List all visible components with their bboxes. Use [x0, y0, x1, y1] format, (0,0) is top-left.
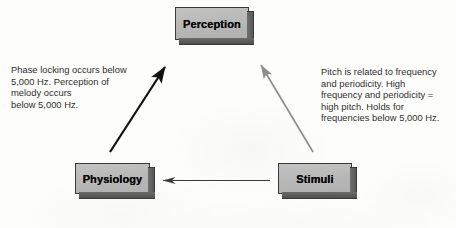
- annotation-right-text: Pitch is related to frequency and period…: [321, 66, 456, 124]
- node-bevel-bottom: [79, 192, 155, 199]
- arrow-stimuli-to-perception: [261, 65, 313, 152]
- node-stimuli[interactable]: Stimuli: [278, 163, 352, 194]
- node-bevel-bottom: [179, 38, 254, 45]
- node-bevel-bottom: [282, 192, 357, 199]
- node-shadow: [285, 198, 362, 206]
- node-perception[interactable]: Perception: [175, 7, 249, 40]
- node-stimuli-label: Stimuli: [296, 173, 333, 185]
- node-shadow: [182, 44, 259, 52]
- node-physiology-label: Physiology: [83, 173, 143, 185]
- node-shadow: [82, 198, 160, 206]
- node-physiology[interactable]: Physiology: [75, 163, 150, 194]
- node-perception-label: Perception: [183, 18, 241, 30]
- annotation-left-text: Phase locking occurs below 5,000 Hz. Per…: [11, 64, 147, 110]
- diagram-canvas: Perception Physiology Stimuli Phase lock…: [0, 0, 456, 228]
